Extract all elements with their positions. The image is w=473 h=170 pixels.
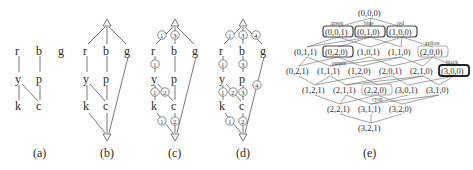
- weight-c-bottom: 2: [241, 118, 245, 126]
- node-c: c: [103, 99, 108, 113]
- lattice-node: (1,2,1): [302, 85, 325, 95]
- lattice-node: (0,1,0): [357, 27, 380, 37]
- node-y: y: [15, 72, 21, 86]
- lattice-node: (2,1,0): [410, 66, 433, 76]
- weight-y-c: 2: [163, 89, 167, 97]
- node-r: r: [15, 44, 19, 58]
- node-b: b: [239, 44, 245, 58]
- lattice-node: (1,0,1): [357, 47, 380, 57]
- weight-k-bottom: 1: [228, 118, 232, 126]
- weight-r-y: 1: [153, 61, 157, 69]
- lattice-node: (3,1,0): [426, 85, 449, 95]
- bottom-triangle-icon: [103, 134, 111, 141]
- lattice-node: (3,1,1): [358, 104, 381, 114]
- node-g: g: [192, 44, 198, 58]
- weight-top-r: 1: [228, 32, 232, 40]
- node-c: c: [171, 99, 176, 113]
- lattice-node: (2,2,0): [364, 85, 387, 95]
- bottom-triangle-icon: [239, 134, 247, 141]
- lattice-node: (3,2,0): [389, 104, 412, 114]
- weight-y-c: 2: [231, 89, 235, 97]
- weight-y-k: 1: [153, 89, 157, 97]
- color-label-green: green: [331, 20, 343, 26]
- color-label-cyan: cyan: [372, 96, 383, 102]
- node-k: k: [151, 99, 157, 113]
- node-r: r: [219, 44, 223, 58]
- weight-top-r: 1: [160, 32, 164, 40]
- lattice-node: (2,2,1): [327, 104, 350, 114]
- top-triangle-icon: [103, 19, 111, 26]
- node-b: b: [36, 44, 42, 58]
- top-triangle-icon: [171, 19, 179, 26]
- panel-b: r b g y p k c (b): [83, 19, 130, 160]
- node-y: y: [83, 72, 89, 86]
- lattice-node: (2,1,1): [333, 85, 356, 95]
- node-k: k: [83, 99, 89, 113]
- caption-d: (d): [236, 146, 250, 160]
- lattice-node: (3,0,0): [441, 66, 464, 76]
- lattice-node: (1,2,0): [348, 66, 371, 76]
- caption-b: (b): [100, 146, 114, 160]
- weight-top-g: 4: [254, 32, 258, 40]
- lattice-node: (3,2,1): [358, 123, 381, 133]
- node-b: b: [171, 44, 177, 58]
- node-r: r: [83, 44, 87, 58]
- weight-g-bottom: 4: [255, 82, 259, 90]
- lattice-node: (1,1,1): [317, 66, 340, 76]
- node-g: g: [124, 44, 130, 58]
- weight-p-c: 3: [241, 89, 245, 97]
- panel-d: 1 3 4 1 3 1 2 3 4 1 2 r b g y p k c (d): [219, 19, 266, 160]
- lattice-node: (3,0,1): [395, 85, 418, 95]
- node-k: k: [15, 99, 21, 113]
- color-label-yellow: yellow: [425, 40, 440, 46]
- weight-c-bottom: 2: [173, 118, 177, 126]
- lattice-node: (0,1,1): [294, 47, 317, 57]
- node-p: p: [171, 72, 177, 86]
- weight-r-y: 1: [221, 61, 225, 69]
- node-y: y: [219, 72, 225, 86]
- weight-b-p: 3: [241, 61, 245, 69]
- lattice-node: (2,0,0): [420, 47, 443, 57]
- node-g: g: [260, 44, 266, 58]
- color-label-red: red: [397, 20, 404, 26]
- weight-k-bottom: 1: [160, 118, 164, 126]
- lattice-node: (0,0,0): [358, 8, 381, 18]
- figure-canvas: r b g y p k c (a) r b g y p k c (b): [0, 0, 473, 170]
- node-p: p: [103, 72, 109, 86]
- weight-top-b: 3: [241, 32, 245, 40]
- weight-y-k: 1: [221, 89, 225, 97]
- panel-c: 1 3 1 1 2 1 2 r b g y p k c (c): [151, 19, 198, 160]
- lattice-node: (0,2,0): [325, 47, 348, 57]
- caption-e: (e): [363, 146, 376, 160]
- node-c: c: [36, 99, 41, 113]
- caption-c: (c): [168, 146, 181, 160]
- node-r: r: [151, 44, 155, 58]
- lattice-node: (1,1,0): [388, 47, 411, 57]
- node-b: b: [103, 44, 109, 58]
- node-p: p: [36, 72, 42, 86]
- panel-a: r b g y p k c (a): [15, 44, 64, 160]
- weight-top-b: 3: [173, 32, 177, 40]
- lattice-node: (0,2,1): [286, 66, 309, 76]
- node-c: c: [239, 99, 244, 113]
- lattice-node: (1,0,0): [389, 27, 412, 37]
- panel-e: green blue red yellow purple black cyan …: [286, 8, 469, 160]
- lattice-node: (0,0,1): [325, 27, 348, 37]
- color-label-blue: blue: [364, 20, 374, 26]
- bottom-triangle-icon: [171, 134, 179, 141]
- node-k: k: [219, 99, 225, 113]
- node-y: y: [151, 72, 157, 86]
- caption-a: (a): [33, 146, 46, 160]
- node-p: p: [239, 72, 245, 86]
- node-g: g: [58, 44, 64, 58]
- lattice-node: (2,0,1): [379, 66, 402, 76]
- top-triangle-icon: [239, 19, 247, 26]
